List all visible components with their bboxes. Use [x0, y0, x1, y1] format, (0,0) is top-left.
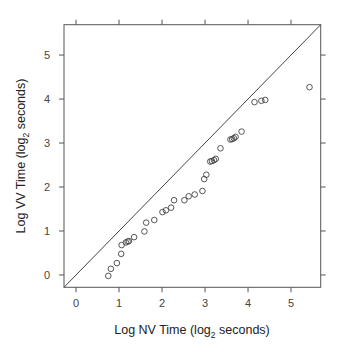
data-point — [307, 84, 313, 90]
data-point — [105, 273, 111, 279]
data-point — [143, 220, 149, 226]
data-point — [171, 197, 177, 203]
y-axis-ticks: 012345 — [44, 49, 326, 281]
data-point — [118, 251, 124, 257]
x-tick-label: 5 — [288, 297, 294, 309]
data-point — [151, 217, 157, 223]
data-points — [105, 84, 312, 278]
y-tick-label: 1 — [44, 225, 50, 237]
data-point — [200, 188, 206, 194]
data-point — [218, 146, 224, 152]
x-tick-label: 3 — [202, 297, 208, 309]
data-point — [108, 266, 114, 272]
data-point — [262, 97, 268, 103]
x-tick-label: 2 — [159, 297, 165, 309]
data-point — [142, 229, 148, 235]
data-point — [231, 135, 237, 141]
data-point — [168, 205, 174, 211]
data-point — [163, 208, 169, 214]
x-axis-label: Log NV Time (log2 seconds) — [114, 323, 270, 340]
data-point — [252, 99, 258, 105]
data-point — [259, 98, 265, 104]
x-tick-label: 0 — [73, 297, 79, 309]
y-tick-label: 5 — [44, 49, 50, 61]
identity-reference-line — [64, 25, 321, 288]
scatter-chart: 012345 012345 Log NV Time (log2 seconds)… — [0, 0, 343, 356]
y-tick-label: 3 — [44, 137, 50, 149]
data-point — [192, 192, 198, 198]
data-point — [131, 234, 137, 240]
x-tick-label: 4 — [245, 297, 251, 309]
data-point — [239, 129, 245, 135]
y-tick-label: 0 — [44, 269, 50, 281]
y-equals-x-line — [64, 25, 321, 288]
x-tick-label: 1 — [116, 297, 122, 309]
data-point — [160, 209, 166, 215]
data-point — [186, 193, 192, 199]
data-point — [114, 260, 120, 266]
y-tick-label: 2 — [44, 181, 50, 193]
y-axis-label: Log VV Time (log2 seconds) — [14, 79, 31, 234]
data-point — [204, 172, 210, 178]
y-tick-label: 4 — [44, 93, 50, 105]
